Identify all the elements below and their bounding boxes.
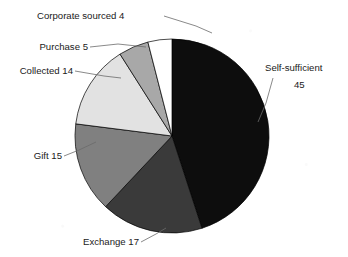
slice-label-purchase: Purchase 5 bbox=[39, 41, 88, 52]
pie-slices-group: Self-sufficient 45Exchange 17Gift 15Coll… bbox=[75, 39, 269, 233]
pie-chart: Self-sufficient 45Exchange 17Gift 15Coll… bbox=[0, 0, 348, 257]
slice-label-gift: Gift 15 bbox=[34, 150, 62, 161]
slice-label-self-sufficient: Self-sufficient bbox=[265, 62, 323, 73]
slice-label-exchange: Exchange 17 bbox=[83, 236, 139, 247]
pie-chart-canvas: Self-sufficient 45Exchange 17Gift 15Coll… bbox=[0, 0, 348, 257]
slice-label-corporate-sourced: Corporate sourced 4 bbox=[37, 10, 125, 21]
leader-line-corporate-sourced bbox=[164, 16, 212, 33]
slice-label-collected: Collected 14 bbox=[20, 65, 74, 76]
slice-label-self-sufficient-value: 45 bbox=[294, 79, 305, 90]
